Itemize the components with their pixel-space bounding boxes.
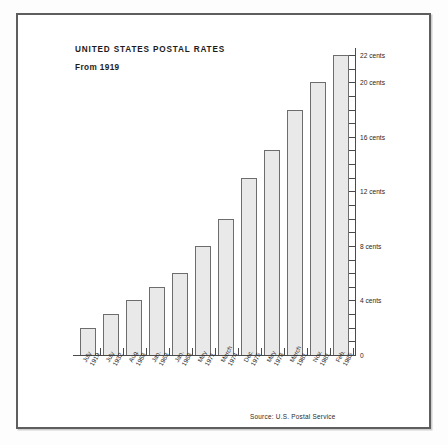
screenshot-canvas: UNITED STATES POSTAL RATES From 1919 04 … bbox=[0, 0, 448, 445]
y-axis-tick-label: 0 bbox=[360, 352, 364, 359]
bar bbox=[241, 178, 257, 355]
chart-plot-inner: 04 cents8 cents12 cents16 cents20 cents2… bbox=[59, 42, 369, 362]
y-axis-tick bbox=[349, 110, 355, 111]
y-axis-tick-label: 20 cents bbox=[360, 79, 385, 86]
y-axis-tick bbox=[349, 164, 355, 165]
y-axis-tick-label: 4 cents bbox=[360, 297, 381, 304]
y-axis-tick-label: 12 cents bbox=[360, 188, 385, 195]
y-axis-line bbox=[355, 48, 356, 356]
bar bbox=[218, 219, 234, 355]
y-axis-tick bbox=[349, 341, 355, 342]
y-axis-tick-label: 8 cents bbox=[360, 242, 381, 249]
y-axis-tick bbox=[349, 123, 355, 124]
bar bbox=[310, 82, 326, 355]
bar bbox=[333, 55, 349, 355]
y-axis-tick bbox=[349, 328, 355, 329]
y-axis-tick bbox=[349, 232, 355, 233]
bar bbox=[126, 300, 142, 355]
y-axis-tick bbox=[349, 287, 355, 288]
y-axis-tick bbox=[349, 96, 355, 97]
y-axis-tick bbox=[349, 150, 355, 151]
source-note: Source: U.S. Postal Service bbox=[250, 413, 336, 420]
y-axis-tick bbox=[349, 314, 355, 315]
y-axis-tick-label: 16 cents bbox=[360, 133, 385, 140]
bar bbox=[195, 246, 211, 355]
y-axis-tick bbox=[349, 260, 355, 261]
y-axis-tick bbox=[349, 219, 355, 220]
bar bbox=[287, 110, 303, 355]
chart-plot-area: 04 cents8 cents12 cents16 cents20 cents2… bbox=[59, 42, 369, 362]
y-axis-tick bbox=[349, 178, 355, 179]
bar bbox=[172, 273, 188, 355]
bar bbox=[264, 150, 280, 355]
y-axis-tick bbox=[349, 273, 355, 274]
bar bbox=[149, 287, 165, 355]
y-axis-tick-label: 22 cents bbox=[360, 52, 385, 59]
chart-frame: UNITED STATES POSTAL RATES From 1919 04 … bbox=[16, 13, 431, 429]
y-axis-tick bbox=[349, 205, 355, 206]
y-axis-tick bbox=[349, 69, 355, 70]
